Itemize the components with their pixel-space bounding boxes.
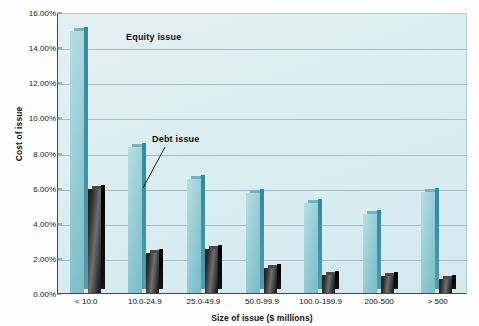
bar-debt-2	[205, 249, 218, 293]
bar-equity-0	[70, 31, 84, 293]
y-tick-mark	[57, 13, 62, 14]
bar-equity-3	[246, 193, 260, 293]
bar-debt-6	[439, 279, 452, 293]
bar-front-face	[88, 189, 101, 293]
y-tick-label: 14.00%	[4, 44, 56, 53]
bar-front-face	[304, 203, 318, 293]
bar-equity-6	[421, 192, 435, 293]
plot-area: Equity issue Debt issue	[57, 13, 467, 294]
bar-front-face	[264, 268, 277, 293]
x-tick-label: < 10.0	[75, 297, 97, 306]
bar-side-face	[159, 249, 163, 289]
annotation-equity-issue: Equity issue	[126, 32, 181, 42]
bar-front-face	[146, 253, 159, 293]
y-tick-label: 8.00%	[4, 149, 56, 158]
bar-equity-5	[363, 214, 377, 293]
bar-debt-1	[146, 253, 159, 293]
bar-front-face	[363, 214, 377, 293]
x-axis-title: Size of issue ($ millions)	[57, 313, 467, 323]
bar-front-face	[439, 279, 452, 293]
y-tick-label: 6.00%	[4, 184, 56, 193]
y-tick-label: 0.00%	[4, 290, 56, 299]
bar-equity-2	[187, 179, 201, 293]
bar-equity-1	[128, 147, 142, 293]
x-tick-label: 200-500	[364, 297, 393, 306]
bar-group	[304, 14, 335, 293]
y-tick-mark	[57, 223, 62, 224]
bar-front-face	[70, 31, 84, 293]
annotation-debt-issue: Debt issue	[152, 134, 200, 144]
y-tick-mark	[57, 118, 62, 119]
bar-front-face	[381, 276, 394, 293]
bar-front-face	[187, 179, 201, 293]
y-tick-mark	[57, 153, 62, 154]
y-tick-label: 4.00%	[4, 219, 56, 228]
y-axis-ticks: 0.00%2.00%4.00%6.00%8.00%10.00%12.00%14.…	[0, 0, 56, 326]
x-tick-label: 10.0-24.9	[128, 297, 162, 306]
x-tick-label: > 500	[428, 297, 448, 306]
chart-container: Cost of issue 0.00%2.00%4.00%6.00%8.00%1…	[0, 0, 479, 326]
bar-front-face	[205, 249, 218, 293]
bar-side-face	[452, 275, 456, 289]
y-tick-mark	[57, 294, 62, 295]
bar-equity-4	[304, 203, 318, 293]
bar-front-face	[246, 193, 260, 293]
bar-front-face	[128, 147, 142, 293]
x-tick-label: 100.0-199.9	[299, 297, 342, 306]
bar-debt-3	[264, 268, 277, 293]
annotation-leader-line	[142, 147, 166, 189]
bar-debt-0	[88, 189, 101, 293]
bar-side-face	[394, 272, 398, 289]
y-tick-mark	[57, 188, 62, 189]
bar-group	[187, 14, 218, 293]
bar-side-face	[335, 271, 339, 289]
bar-debt-4	[322, 275, 335, 293]
y-tick-label: 10.00%	[4, 114, 56, 123]
bar-side-face	[277, 264, 281, 289]
bar-group	[70, 14, 101, 293]
bar-group	[421, 14, 452, 293]
bar-front-face	[421, 192, 435, 293]
y-tick-label: 2.00%	[4, 254, 56, 263]
bar-side-face	[435, 188, 439, 289]
bar-side-face	[218, 245, 222, 289]
y-tick-label: 16.00%	[4, 9, 56, 18]
bar-debt-5	[381, 276, 394, 293]
y-tick-mark	[57, 48, 62, 49]
x-tick-label: 25.0-49.9	[187, 297, 221, 306]
y-tick-label: 12.00%	[4, 79, 56, 88]
bar-side-face	[101, 185, 105, 289]
bar-group	[363, 14, 394, 293]
bar-front-face	[322, 275, 335, 293]
bar-group	[246, 14, 277, 293]
x-tick-label: 50.0-99.9	[245, 297, 279, 306]
y-tick-mark	[57, 83, 62, 84]
y-tick-mark	[57, 258, 62, 259]
